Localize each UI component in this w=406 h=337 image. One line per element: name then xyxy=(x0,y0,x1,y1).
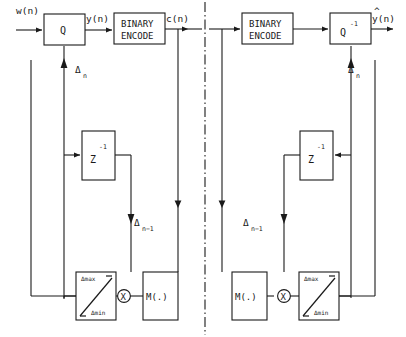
label-delay: Z xyxy=(90,154,96,165)
label-decoder-delta-n-1: Δ xyxy=(243,217,249,228)
label-dequantizer-sup: -1 xyxy=(350,20,358,28)
delay-box xyxy=(82,131,115,180)
label-limiter-max: Δmax xyxy=(81,275,96,282)
label-input-wn: w(n) xyxy=(16,5,39,16)
label-delta-n-sub: n xyxy=(83,72,87,80)
label-decoder-limiter-min: Δmin xyxy=(314,309,329,316)
arrow-cn-tap-down xyxy=(175,201,182,209)
label-decoder-limiter-max: Δmax xyxy=(304,275,319,282)
label-decoder-multiplier: X xyxy=(281,292,287,302)
diagram-canvas: w(n) Q y(n) BINARY ENCODE c(n) Δ n Z -1 … xyxy=(0,0,406,337)
label-delta-n-1-sub: n−1 xyxy=(142,225,154,233)
label-m-function: M(.) xyxy=(146,292,168,302)
label-quantizer: Q xyxy=(60,25,66,36)
arrow-decoder-delayed-step-down xyxy=(281,214,288,224)
label-delay-sup: -1 xyxy=(99,143,107,151)
label-decoder-delta-n-sub: n xyxy=(356,72,360,80)
dequantizer-box xyxy=(330,13,371,44)
label-binary-encode-line2: ENCODE xyxy=(121,31,154,41)
label-decoder-delta-n-1-sub: n−1 xyxy=(251,225,263,233)
label-limiter-min: Δmin xyxy=(91,309,106,316)
label-delta-n: Δ xyxy=(75,64,81,75)
label-decoder-m-function: M(.) xyxy=(235,292,257,302)
label-encoder-output-cn: c(n) xyxy=(166,13,189,24)
block-diagram-svg: w(n) Q y(n) BINARY ENCODE c(n) Δ n Z -1 … xyxy=(0,0,406,337)
arrow-decoder-tap-down xyxy=(219,201,226,209)
arrow-delta-n-up xyxy=(61,58,68,68)
label-delta-n-1: Δ xyxy=(134,217,140,228)
label-dequantizer: Q xyxy=(340,27,346,38)
label-binary-decode-line2: ENCODE xyxy=(249,31,282,41)
label-multiplier: X xyxy=(121,292,127,302)
label-binary-decode-line1: BINARY xyxy=(249,19,282,29)
label-decoder-delay-sup: -1 xyxy=(317,143,325,151)
label-binary-encode-line1: BINARY xyxy=(121,19,154,29)
decoder-delay-box xyxy=(300,131,333,180)
label-output-yn: y(n) xyxy=(372,13,395,24)
label-decoder-delay: Z xyxy=(308,154,314,165)
label-quantizer-output: y(n) xyxy=(86,13,109,24)
label-decoder-delta-n: Δ xyxy=(348,64,354,75)
